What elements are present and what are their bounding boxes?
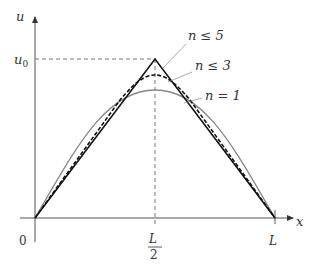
leader-n5 [163,44,186,68]
leader-n3 [168,72,192,82]
x-axis-label: x [296,214,304,229]
L-label: L [268,234,277,248]
u0-label: u0 [14,52,28,69]
half-L-denominator: 2 [150,248,158,262]
y-axis-label: u [16,9,24,24]
label-n5: n ≤ 5 [188,28,224,43]
label-n1: n = 1 [205,88,241,103]
fourier-plucked-string-diagram: n ≤ 5 n ≤ 3 n = 1 u x u0 0 L 2 L [0,0,317,266]
origin-label: 0 [19,234,27,248]
half-L-numerator: L [148,232,157,246]
label-n3: n ≤ 3 [195,58,231,73]
